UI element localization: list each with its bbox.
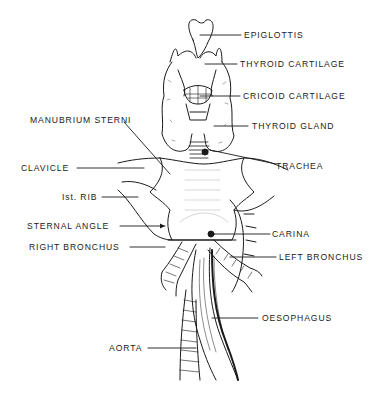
label-clavicle: CLAVICLE [21,163,69,173]
label-thyroid-cartilage: THYROID CARTILAGE [240,59,345,69]
label-epiglottis: EPIGLOTTIS [244,30,304,40]
label-carina: CARINA [272,229,310,239]
thyroid-gland-shape [162,62,234,151]
label-trachea: TRACHEA [276,161,323,171]
right-bronchus-shape [161,242,196,296]
label-cricoid-cartilage: CRICOID CARTILAGE [243,91,346,101]
label-aorta: AORTA [109,343,142,353]
label-thyroid-gland: THYROID GLAND [252,121,334,131]
label-oesophagus: OESOPHAGUS [262,313,332,323]
label-left-bronchus: LEFT BRONCHUS [279,252,363,262]
clavicle-right [118,158,160,190]
manubrium-shape [150,158,254,240]
left-bronchus-shape [208,240,262,292]
leader-lines [77,35,276,348]
anatomy-diagram: EPIGLOTTIS THYROID CARTILAGE CRICOID CAR… [0,0,386,402]
descending-aorta [180,290,200,380]
label-right-bronchus: RIGHT BRONCHUS [29,242,120,252]
oesophagus-shape [192,248,238,380]
label-sternal-angle: STERNAL ANGLE [27,221,109,231]
label-first-rib: Ist. RIB [62,192,97,202]
aorta-arch [230,200,256,292]
label-manubrium-sterni: MANUBRIUM STERNI [30,115,131,125]
first-rib-right [118,190,172,240]
